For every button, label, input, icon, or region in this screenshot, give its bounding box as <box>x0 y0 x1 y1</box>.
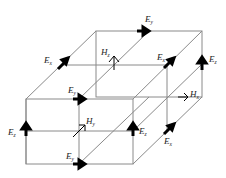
cube-edges <box>26 31 202 164</box>
label-hz-top: Hz <box>100 47 111 58</box>
label-ey-top-back: Ey <box>144 14 154 25</box>
label-ey-front-bottom: Ey <box>65 151 75 162</box>
label-ex-top-left: Ex <box>43 55 53 66</box>
label-hy-front: Hy <box>85 116 96 127</box>
label-ex-top-right: Ex <box>156 52 166 63</box>
label-ez-back-right: Ez <box>208 54 218 65</box>
yee-cell-diagram: Ex Ey Hz Ex Ez Ey Hx Ez Hy Ez Ex Ey <box>0 0 226 178</box>
label-ex-bottom-right: Ex <box>163 136 173 147</box>
label-ey-front-top: Ey <box>67 85 77 96</box>
label-ez-front-right: Ez <box>138 126 148 137</box>
label-hx-right: Hx <box>189 89 200 100</box>
field-labels: Ex Ey Hz Ex Ez Ey Hx Ez Hy Ez Ex Ey <box>7 14 218 162</box>
label-ez-front-left: Ez <box>7 127 17 138</box>
